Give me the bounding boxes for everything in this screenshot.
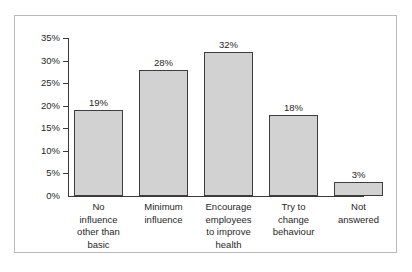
bar-value-label: 18%: [269, 102, 318, 113]
y-tick-mark: [63, 151, 69, 152]
x-category-label: Try to change behaviour: [259, 201, 328, 239]
plot-area: 35% 30% 25% 20% 15% 10% 5% 0% 19% 28% 32…: [0, 0, 412, 272]
y-tick-label: 0%: [24, 191, 60, 201]
y-tick-label-text: 35%: [28, 33, 60, 43]
y-tick-mark: [63, 106, 69, 107]
y-tick-label: 15%: [24, 123, 60, 133]
x-category-label: Encourage employees to improve health: [194, 201, 263, 251]
y-tick-label-text: 20%: [28, 101, 60, 111]
y-tick-label: 25%: [24, 78, 60, 88]
y-tick-mark: [63, 83, 69, 84]
y-tick-mark: [63, 173, 69, 174]
bar-value-label: 19%: [74, 97, 123, 108]
bar[interactable]: [74, 110, 123, 196]
y-tick-label-text: 30%: [28, 56, 60, 66]
x-axis-line: [68, 196, 364, 197]
y-tick-label: 30%: [24, 56, 60, 66]
bar[interactable]: [334, 182, 383, 196]
y-tick-mark: [63, 38, 69, 39]
y-tick-label-text: 5%: [28, 168, 60, 178]
x-category-label: No influence other than basic: [64, 201, 133, 251]
y-tick-label: 5%: [24, 168, 60, 178]
y-tick-mark: [63, 61, 69, 62]
bar[interactable]: [204, 52, 253, 196]
bar[interactable]: [139, 70, 188, 196]
y-tick-label-text: 0%: [28, 191, 60, 201]
x-category-label: Minimum influence: [129, 201, 198, 226]
y-tick-label: 10%: [24, 146, 60, 156]
bar[interactable]: [269, 115, 318, 196]
y-tick-label: 35%: [24, 33, 60, 43]
y-tick-label: 20%: [24, 101, 60, 111]
x-category-label: Not answered: [324, 201, 393, 226]
y-tick-label-text: 10%: [28, 146, 60, 156]
bar-value-label: 3%: [334, 169, 383, 180]
bar-value-label: 28%: [139, 57, 188, 68]
y-tick-label-text: 15%: [28, 123, 60, 133]
y-tick-mark: [63, 128, 69, 129]
chart-figure: 35% 30% 25% 20% 15% 10% 5% 0% 19% 28% 32…: [0, 0, 412, 272]
bar-value-label: 32%: [204, 39, 253, 50]
y-tick-label-text: 25%: [28, 78, 60, 88]
